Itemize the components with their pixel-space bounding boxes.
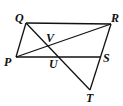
geometry-diagram: Q R V P U S T bbox=[0, 0, 123, 106]
label-u: U bbox=[49, 57, 59, 71]
segments bbox=[16, 23, 111, 90]
label-s: S bbox=[103, 51, 110, 65]
labels: Q R V P U S T bbox=[4, 11, 119, 105]
label-v: V bbox=[46, 31, 55, 45]
segment-qp bbox=[16, 23, 26, 57]
segment-pr bbox=[16, 24, 111, 57]
label-p: P bbox=[4, 55, 12, 69]
label-q: Q bbox=[15, 11, 24, 25]
segment-qr bbox=[26, 23, 111, 24]
label-t: T bbox=[86, 91, 94, 105]
label-r: R bbox=[110, 11, 119, 25]
